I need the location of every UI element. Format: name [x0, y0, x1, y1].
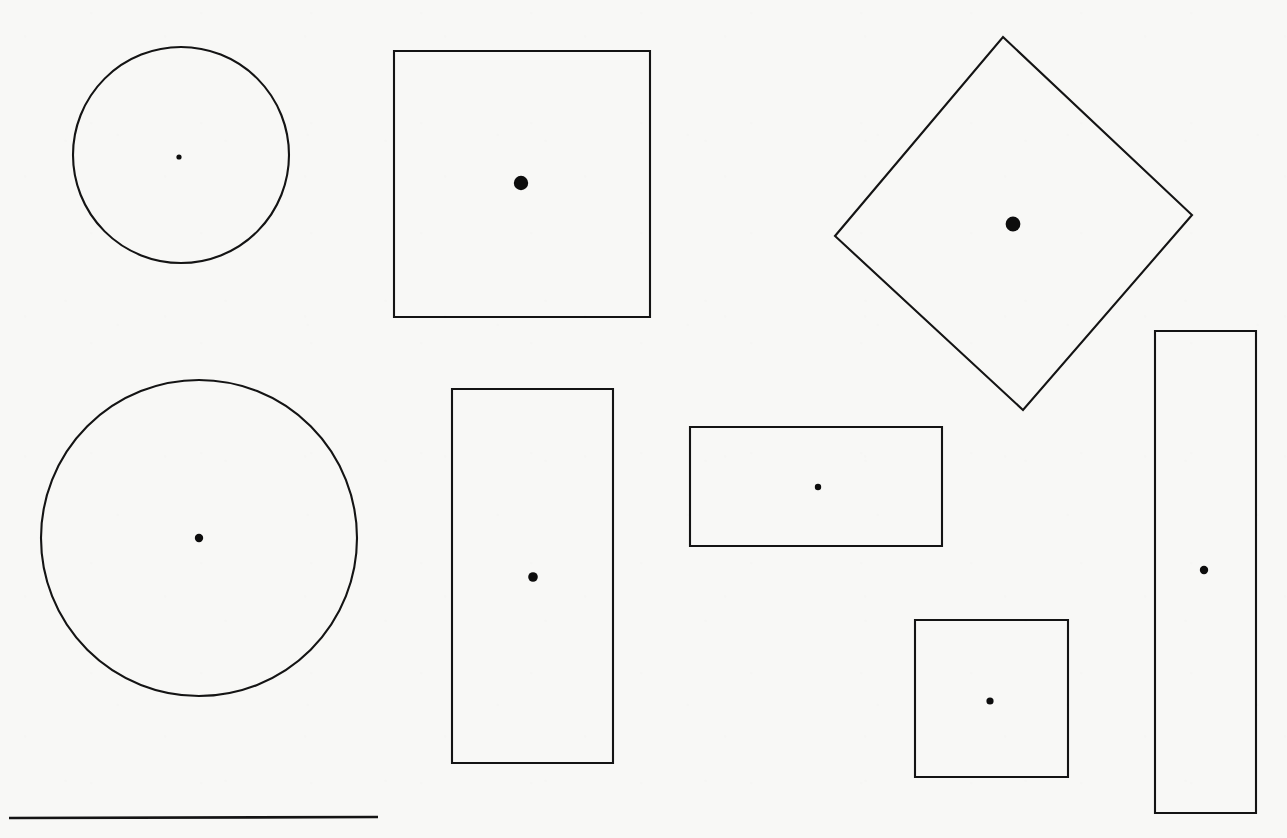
- figure-canvas: [0, 0, 1287, 838]
- diamond-center-dot: [1006, 217, 1021, 232]
- circle-large-center-dot: [195, 534, 203, 542]
- circle-small-center-dot: [176, 154, 181, 159]
- baseline-rule: [9, 817, 378, 818]
- rect-wide-center-dot: [815, 484, 821, 490]
- rect-tall-left-center-dot: [528, 572, 538, 582]
- shapes-figure: [0, 0, 1287, 838]
- square-small-center-dot: [986, 697, 993, 704]
- square-large-center-dot: [514, 176, 528, 190]
- figure-background: [0, 0, 1287, 838]
- rect-tall-right-center-dot: [1200, 566, 1208, 574]
